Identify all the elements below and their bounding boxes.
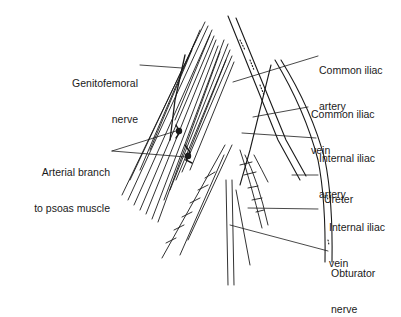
label-line: Internal iliac — [329, 221, 385, 233]
label-genitofemoral-nerve: Genitofemoral nerve — [60, 53, 138, 149]
label-line: nerve — [60, 113, 138, 125]
label-line: Common iliac — [311, 108, 375, 120]
psoas-muscle — [122, 22, 234, 222]
label-arterial-branch-psoas: Arterial branch to psoas muscle — [10, 142, 110, 238]
obturator-nerve-drawing — [226, 180, 250, 285]
label-line: Genitofemoral — [60, 77, 138, 89]
label-obturator-nerve: Obturator nerve — [331, 243, 375, 317]
common-iliac-artery — [228, 16, 306, 180]
external-iliac-vessels — [162, 145, 232, 258]
label-line: Internal iliac — [319, 152, 375, 164]
label-line: Obturator — [331, 267, 375, 279]
label-line: Arterial branch — [10, 166, 110, 178]
label-line: to psoas muscle — [10, 202, 110, 214]
label-line: nerve — [331, 303, 375, 315]
internal-iliac-artery-branches — [240, 150, 268, 228]
label-line: Common iliac — [319, 64, 383, 76]
